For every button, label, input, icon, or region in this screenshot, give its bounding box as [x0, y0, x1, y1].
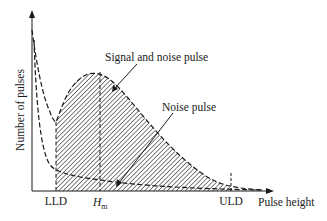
- y-axis-label: Number of pulses: [14, 69, 27, 151]
- hm-label: Hm: [92, 196, 108, 211]
- signal-noise-label: Signal and noise pulse: [105, 51, 208, 64]
- lld-label: LLD: [45, 195, 67, 207]
- noise-label: Noise pulse: [162, 101, 216, 114]
- x-axis-label: Pulse height: [258, 196, 315, 209]
- signal-noise-pointer: [115, 64, 137, 88]
- y-axis-arrow-icon: [29, 10, 35, 18]
- hm-sub: m: [101, 202, 108, 211]
- pulse-height-diagram: Signal and noise pulse Noise pulse Numbe…: [0, 0, 327, 221]
- x-axis-arrow-icon: [266, 188, 274, 194]
- counted-region-hatch: [56, 73, 245, 191]
- uld-label: ULD: [219, 195, 243, 207]
